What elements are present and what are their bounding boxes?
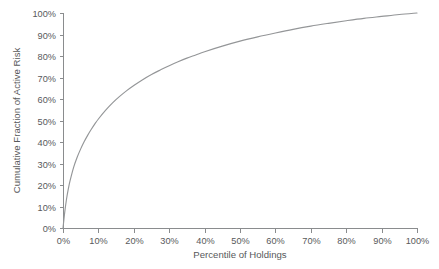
y-axis-tick-label: 60% bbox=[38, 95, 56, 105]
x-axis-tick-label: 10% bbox=[89, 236, 107, 246]
x-axis-tick-label: 50% bbox=[231, 236, 249, 246]
x-axis-title: Percentile of Holdings bbox=[193, 249, 287, 260]
x-axis-tick-label: 80% bbox=[337, 236, 355, 246]
y-axis-tick-label: 30% bbox=[38, 160, 56, 170]
chart-container: 0%10%20%30%40%50%60%70%80%90%100% 0%10%2… bbox=[0, 0, 439, 269]
y-axis-tick-label: 100% bbox=[33, 9, 57, 19]
x-axis-tick-label: 20% bbox=[125, 236, 143, 246]
y-axis-tick-label: 50% bbox=[38, 117, 56, 127]
x-axis-tick-label: 40% bbox=[196, 236, 214, 246]
x-axis-tick-label: 90% bbox=[373, 236, 391, 246]
y-axis-tick-label: 90% bbox=[38, 31, 56, 41]
y-axis-tick-label-group: 0%10%20%30%40%50%60%70%80%90%100% bbox=[33, 9, 57, 234]
cumulative-risk-curve bbox=[63, 13, 417, 228]
y-axis-tick-label: 10% bbox=[38, 203, 56, 213]
x-axis-tick-label: 60% bbox=[266, 236, 284, 246]
y-axis-tick-label: 40% bbox=[38, 138, 56, 148]
y-axis-tick-label: 80% bbox=[38, 52, 56, 62]
x-axis-tick-label: 70% bbox=[302, 236, 320, 246]
x-axis-tick-mark-group bbox=[64, 229, 418, 233]
cumulative-active-risk-chart: 0%10%20%30%40%50%60%70%80%90%100% 0%10%2… bbox=[0, 0, 439, 269]
y-axis-title: Cumulative Fraction of Active Risk bbox=[11, 48, 22, 194]
y-axis-tick-label: 0% bbox=[43, 224, 56, 234]
y-axis-tick-label: 70% bbox=[38, 74, 56, 84]
y-axis-tick-mark-group bbox=[60, 14, 64, 229]
y-axis-tick-label: 20% bbox=[38, 181, 56, 191]
x-axis-tick-label: 0% bbox=[57, 236, 70, 246]
x-axis-tick-label-group: 0%10%20%30%40%50%60%70%80%90%100% bbox=[57, 236, 429, 246]
x-axis-tick-label: 100% bbox=[406, 236, 430, 246]
x-axis-tick-label: 30% bbox=[160, 236, 178, 246]
